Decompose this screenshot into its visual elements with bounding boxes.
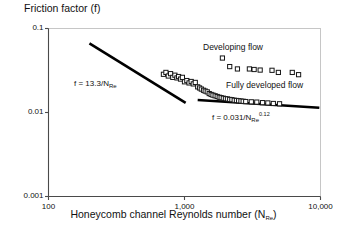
equation-turbulent-sub: Re [251,117,259,123]
equation-laminar-sub: Re [109,83,117,89]
x-axis-title: Honeycomb channel Reynolds number (NRe) [0,208,347,220]
equation-laminar-prefix: f = 13.3/N [74,79,109,88]
annotation-developing-flow: Developing flow [203,42,263,52]
plot-canvas [0,0,347,234]
equation-turbulent-sup: 0.12 [259,111,270,117]
equation-turbulent: f = 0.031/NRe0.12 [212,113,270,122]
x-axis-title-sub: Re [265,215,273,221]
y-tick-label: 0.001 [9,191,44,200]
x-axis-title-prefix: Honeycomb channel Reynolds number (N [70,208,265,220]
annotation-fully-developed-flow: Fully developed flow [226,80,303,90]
fit-lines [89,43,319,107]
x-axis-title-suffix: ) [273,208,277,220]
equation-turbulent-prefix: f = 0.031/N [212,113,251,122]
y-tick-label: 0.01 [9,107,44,116]
axes [45,29,321,201]
equation-laminar: f = 13.3/NRe [74,79,117,88]
y-tick-label: 0.1 [9,23,44,32]
chart-figure: Friction factor (f) 0.1 0.01 0.001 100 1… [0,0,347,234]
